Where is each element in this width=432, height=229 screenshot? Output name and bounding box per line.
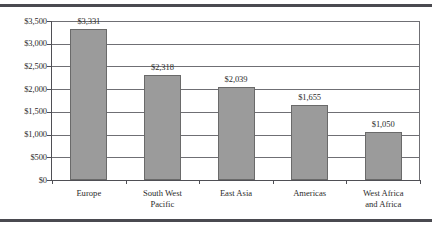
x-axis-category-label: Europe [49, 188, 129, 199]
x-axis-category-label: South West Pacific [122, 188, 202, 209]
x-axis-line [51, 180, 421, 181]
x-axis-category-label: East Asia [196, 188, 276, 199]
figure-top-rule [0, 4, 432, 7]
x-axis-tick [52, 180, 53, 184]
bar-value-label: $1,050 [353, 120, 413, 129]
x-axis-tick [126, 180, 127, 184]
bar[interactable] [218, 87, 255, 180]
x-axis-category-label: Americas [270, 188, 350, 199]
x-axis-category-label: West Africa and Africa [343, 188, 423, 209]
y-axis-tick [47, 89, 52, 90]
y-axis-label: $2,000 [24, 85, 47, 94]
bar-value-label: $1,655 [280, 93, 340, 102]
bar-value-label: $2,039 [206, 75, 266, 84]
y-axis-label: $500 [30, 153, 47, 162]
x-axis-tick [420, 180, 421, 184]
bar[interactable] [144, 75, 181, 180]
y-axis-label: $2,500 [24, 62, 47, 71]
x-axis-tick [199, 180, 200, 184]
bar-chart-figure: $0$500$1,000$1,500$2,000$2,500$3,000$3,5… [0, 0, 432, 229]
y-axis-tick [47, 21, 52, 22]
x-axis-tick [273, 180, 274, 184]
y-axis-tick [47, 135, 52, 136]
y-axis-label: $3,500 [24, 17, 47, 26]
y-axis-tick [47, 66, 52, 67]
y-axis-label: $1,000 [24, 130, 47, 139]
y-axis-label: $0 [39, 176, 47, 185]
y-axis-tick [47, 157, 52, 158]
x-axis-tick [346, 180, 347, 184]
y-axis-label: $3,000 [24, 39, 47, 48]
plot-area [52, 21, 420, 180]
bar-value-label: $3,331 [59, 17, 119, 26]
y-axis-label: $1,500 [24, 107, 47, 116]
figure-bottom-rule [0, 219, 432, 222]
bar-value-label: $2,318 [132, 63, 192, 72]
bar[interactable] [291, 105, 328, 180]
y-axis-tick [47, 44, 52, 45]
bar[interactable] [365, 132, 402, 180]
bar[interactable] [70, 29, 107, 180]
y-axis-tick [47, 112, 52, 113]
